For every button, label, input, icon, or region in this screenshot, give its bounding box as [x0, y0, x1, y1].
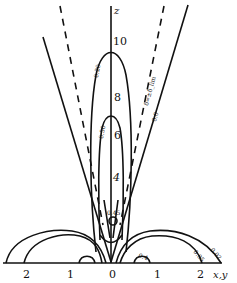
z-tick-6: 6: [114, 129, 121, 142]
z-axis-label: z: [113, 5, 120, 16]
label-contour-0-20: 0.20: [92, 64, 101, 79]
label-boundary-0-0: 0.0: [150, 111, 159, 122]
left-cone-line: [43, 37, 111, 262]
z-tick-8: 8: [114, 91, 121, 104]
contour-diagram: z 10 8 6 4 2 1 0 1 2 x,y 0.20 0.50 0.45 …: [0, 0, 237, 283]
label-right-small: 0.4: [138, 251, 150, 261]
label-right-lobe-0-05: 0.05: [192, 248, 206, 263]
z-tick-10: 10: [113, 35, 127, 48]
xy-tick-1-right: 1: [154, 268, 161, 281]
xy-tick-0: 0: [109, 268, 116, 281]
left-lobe-small: [79, 256, 95, 263]
xy-tick-1-left: 1: [67, 268, 74, 281]
z-tick-4: 4: [112, 171, 120, 184]
left-lobe-outer: [6, 230, 106, 263]
right-lobe-inner: [120, 236, 202, 263]
xy-axis-label: x,y: [213, 269, 228, 280]
label-contour-0-50: 0.50: [97, 125, 106, 140]
xy-tick-2-right: 2: [197, 268, 204, 281]
label-contour-0-45: 0.45: [107, 209, 121, 216]
label-right-lobe-0-02: 0.02: [209, 246, 223, 261]
label-dashed-line: δ=±δ_lim: [142, 75, 158, 106]
xy-tick-2-left: 2: [23, 268, 30, 281]
